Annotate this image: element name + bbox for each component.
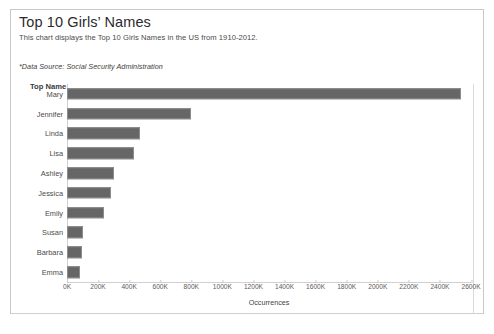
x-tick-label: 2200K (399, 283, 418, 290)
x-tick-label: 200K (90, 283, 105, 290)
bar[interactable] (67, 266, 80, 278)
bar-category-label: Jessica (38, 188, 63, 197)
x-tick-label: 1600K (306, 283, 325, 290)
bar[interactable] (67, 247, 82, 259)
x-tick-label: 2000K (368, 283, 387, 290)
bar-category-label: Linda (45, 129, 63, 138)
bar-row: Jennifer (67, 104, 471, 124)
bar-category-label: Lisa (49, 149, 63, 158)
bar[interactable] (67, 187, 111, 199)
bar-category-label: Jennifer (37, 109, 63, 118)
chart-page: Top 10 Girls’ Names This chart displays … (0, 0, 494, 334)
bar-category-label: Mary (47, 89, 63, 98)
bar[interactable] (67, 227, 83, 239)
x-tick-label: 1200K (244, 283, 263, 290)
bar-row: Susan (67, 223, 471, 243)
x-tick-label: 2600K (461, 283, 480, 290)
bar-row: Lisa (67, 143, 471, 163)
chart-frame: Top 10 Girls’ Names This chart displays … (10, 9, 484, 314)
plot-region: MaryJenniferLindaLisaAshleyJessicaEmilyS… (11, 10, 485, 315)
bar-row: Jessica (67, 183, 471, 203)
bar-category-label: Emily (45, 208, 63, 217)
x-tick-label: 1800K (337, 283, 356, 290)
bar-category-label: Susan (42, 228, 63, 237)
bar-row: Emily (67, 203, 471, 223)
x-tick-label: 1400K (275, 283, 294, 290)
bar[interactable] (67, 167, 114, 179)
bar[interactable] (67, 148, 134, 160)
bar-series: MaryJenniferLindaLisaAshleyJessicaEmilyS… (67, 84, 471, 282)
bar-category-label: Ashley (41, 169, 63, 178)
x-axis-ticks: 0K200K400K600K800K1000K1200K1400K1600K18… (67, 283, 471, 297)
bar-row: Barbara (67, 242, 471, 262)
bar[interactable] (67, 88, 461, 100)
plot-right-border (473, 84, 474, 313)
x-tick-label: 2400K (430, 283, 449, 290)
footer-divider (11, 313, 483, 314)
bar[interactable] (67, 108, 191, 120)
bar-row: Emma (67, 262, 471, 282)
bar-category-label: Emma (42, 268, 63, 277)
x-tick-label: 800K (184, 283, 199, 290)
x-tick-label: 600K (153, 283, 168, 290)
bar[interactable] (67, 128, 140, 140)
bar-row: Mary (67, 84, 471, 104)
x-tick-label: 1000K (213, 283, 232, 290)
x-tick-label: 0K (63, 283, 71, 290)
bar-row: Ashley (67, 163, 471, 183)
bar-row: Linda (67, 124, 471, 144)
x-axis-title: Occurrences (67, 298, 471, 307)
x-tick-label: 400K (121, 283, 136, 290)
bar[interactable] (67, 207, 104, 219)
bar-category-label: Barbara (37, 248, 63, 257)
